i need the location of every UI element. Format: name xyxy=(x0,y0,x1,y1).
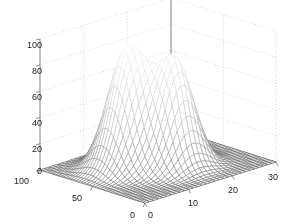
x-tick-label-30: 30 xyxy=(268,173,278,182)
z-tick-label-0: 0 xyxy=(18,167,42,176)
y-tick-label-100: 100 xyxy=(14,177,29,186)
z-tick-label-60: 60 xyxy=(18,93,42,102)
y-tick-label-50: 50 xyxy=(72,194,82,203)
z-tick-label-80: 80 xyxy=(18,67,42,76)
z-tick-label-20: 20 xyxy=(18,145,42,154)
z-tick-label-100: 100 xyxy=(18,41,42,50)
figure-3d-surface-plot: 100 80 60 40 20 0 100 50 0 0 10 20 30 xyxy=(0,0,305,224)
z-tick-label-40: 40 xyxy=(18,119,42,128)
x-tick-label-20: 20 xyxy=(228,186,238,195)
y-tick-label-0: 0 xyxy=(130,211,135,220)
x-tick-label-0: 0 xyxy=(148,211,153,220)
surface-plot-canvas xyxy=(0,0,305,224)
x-tick-label-10: 10 xyxy=(188,199,198,208)
